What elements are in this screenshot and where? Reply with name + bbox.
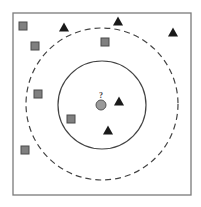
square-class-points: [19, 22, 109, 154]
triangle-class-points: [59, 17, 178, 135]
triangle-point: [59, 23, 69, 32]
square-point: [34, 90, 42, 98]
triangle-point: [114, 97, 124, 106]
triangle-point: [113, 17, 123, 26]
knn-diagram: ?: [0, 0, 201, 207]
square-point: [31, 42, 39, 50]
square-point: [101, 38, 109, 46]
triangle-point: [103, 126, 113, 135]
triangle-point: [168, 28, 178, 37]
square-point: [67, 115, 75, 123]
square-point: [19, 22, 27, 30]
square-point: [21, 146, 29, 154]
query-point: [96, 100, 106, 110]
query-label: ?: [99, 91, 103, 100]
